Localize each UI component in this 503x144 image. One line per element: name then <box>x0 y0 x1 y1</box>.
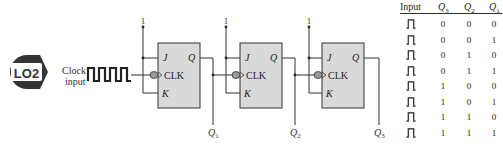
output-q1: Q1 <box>208 127 219 140</box>
cell-q1: 1 <box>487 97 501 107</box>
cell-q1: 0 <box>487 50 501 60</box>
cell-q1: 0 <box>487 112 501 122</box>
header-q2: Q2 <box>464 1 475 13</box>
pin-j: J <box>245 52 250 63</box>
pin-q: Q <box>188 52 196 63</box>
clock-waveform-icon <box>88 68 131 81</box>
flip-flop-2: 1 J CLK K Q Q2 <box>224 16 301 140</box>
cell-q2: 1 <box>462 50 476 60</box>
cell-q3: 1 <box>436 97 450 107</box>
cell-q2: 1 <box>462 128 476 138</box>
cell-q2: 0 <box>462 35 476 45</box>
header-q1: Q1 <box>489 1 500 13</box>
cell-q2: 0 <box>462 81 476 91</box>
clock-pulse-icon <box>405 19 417 29</box>
badge-label: LO2 <box>14 66 39 81</box>
cell-q3: 1 <box>436 112 450 122</box>
cell-q2: 0 <box>462 97 476 107</box>
clock-pulse-icon <box>405 35 417 45</box>
lo2-badge: LO2 <box>10 55 48 89</box>
cell-q2: 1 <box>462 112 476 122</box>
flip-flop-3: 1 J CLK K Q Q3 <box>307 16 385 140</box>
cell-q3: 0 <box>436 35 450 45</box>
table-row: 101 <box>398 96 503 110</box>
cell-q1: 0 <box>487 81 501 91</box>
header-input: Input <box>400 1 421 13</box>
cell-q3: 1 <box>436 128 450 138</box>
cell-q3: 1 <box>436 81 450 91</box>
pin-j: J <box>163 52 168 63</box>
pin-q: Q <box>270 52 278 63</box>
cell-q3: 0 <box>436 50 450 60</box>
flip-flop-1: 1 J CLK K Q Q1 <box>141 16 219 140</box>
supply-label: 1 <box>141 16 146 26</box>
clock-pulse-icon <box>405 50 417 60</box>
table-row: 001 <box>398 34 503 48</box>
cell-q3: 0 <box>436 66 450 76</box>
header-rule <box>400 13 502 14</box>
cell-q1: 1 <box>487 66 501 76</box>
pin-clk: CLK <box>328 70 349 81</box>
cell-q1: 1 <box>487 128 501 138</box>
clock-pulse-icon <box>405 112 417 122</box>
clock-pulse-icon <box>405 66 417 76</box>
table-row: 000 <box>398 18 503 32</box>
pin-j: J <box>327 52 332 63</box>
supply-label: 1 <box>307 16 312 26</box>
pin-k: K <box>243 88 252 99</box>
output-q3: Q3 <box>374 127 385 140</box>
table-row: 011 <box>398 65 503 79</box>
clock-label-line2: input <box>65 76 86 87</box>
cell-q1: 1 <box>487 35 501 45</box>
pin-k: K <box>161 88 170 99</box>
supply-label: 1 <box>224 16 229 26</box>
pin-q: Q <box>352 52 360 63</box>
table-row: 110 <box>398 111 503 125</box>
cell-q3: 0 <box>436 19 450 29</box>
cell-q2: 1 <box>462 66 476 76</box>
clock-label-line1: Clock <box>62 65 86 76</box>
pin-clk: CLK <box>246 70 267 81</box>
table-row: 100 <box>398 80 503 94</box>
clock-pulse-icon <box>405 128 417 138</box>
table-row: 111 <box>398 127 503 141</box>
cell-q2: 0 <box>462 19 476 29</box>
clock-pulse-icon <box>405 97 417 107</box>
clock-pulse-icon <box>405 81 417 91</box>
pin-clk: CLK <box>164 70 185 81</box>
pin-k: K <box>325 88 334 99</box>
header-q3: Q3 <box>438 1 449 13</box>
cell-q1: 0 <box>487 19 501 29</box>
table-row: 010 <box>398 49 503 63</box>
output-q2: Q2 <box>290 127 301 140</box>
